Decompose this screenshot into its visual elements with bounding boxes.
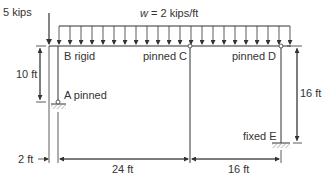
dim-16ft-horizontal-label: 16 ft: [228, 163, 249, 175]
pin-support-a: [51, 100, 66, 109]
joint-b-label: B rigid: [64, 50, 95, 62]
frame-diagram: 5 kips w = 2 kips/ft B rigid pinned C pi…: [0, 0, 335, 183]
distributed-load: [59, 26, 290, 44]
dim-10ft: [36, 46, 46, 102]
dim-2ft-label: 2 ft: [18, 153, 33, 165]
dim-10ft-label: 10 ft: [16, 68, 37, 80]
pin-c-icon: [188, 44, 192, 48]
distributed-load-label: w = 2 kips/ft: [140, 7, 198, 19]
dim-24ft-label: 24 ft: [112, 163, 133, 175]
dim-16ft-vertical-label: 16 ft: [300, 87, 321, 99]
joint-c-label: pinned C: [143, 50, 187, 62]
fixed-support-e: [272, 143, 290, 148]
pin-d-icon: [279, 44, 283, 48]
load-eq: = 2 kips/ft: [148, 7, 198, 19]
point-load-label: 5 kips: [3, 6, 32, 18]
joint-d-label: pinned D: [232, 50, 276, 62]
joint-a-label: A pinned: [64, 89, 107, 101]
joint-e-label: fixed E: [243, 130, 277, 142]
